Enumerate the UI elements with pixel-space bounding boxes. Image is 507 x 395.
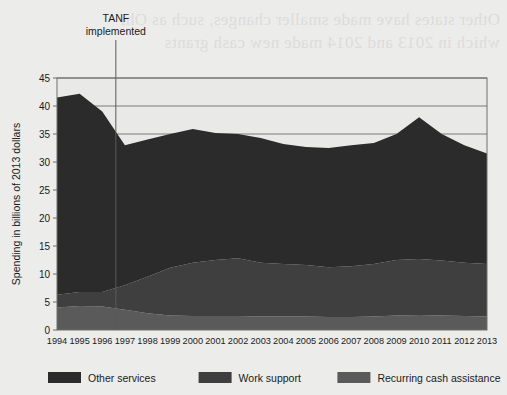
y-axis-label: Spending in billions of 2013 dollars [10,123,22,285]
tanf-annotation-line1: TANF [103,12,130,24]
y-tick-label: 45 [39,73,51,84]
legend-swatch [199,372,232,383]
y-tick-label: 5 [44,297,50,308]
stacked-area-chart: TANFimplemented051015202530354045Spendin… [0,0,507,395]
y-tick-label: 40 [39,101,51,112]
x-tick-label: 2006 [318,336,338,346]
x-tick-label: 2003 [250,336,270,346]
y-tick-label: 20 [39,213,51,224]
x-tick-label: 2001 [205,336,225,346]
tanf-annotation-line2: implemented [86,25,146,37]
x-tick-label: 2012 [454,336,474,346]
x-tick-label: 1998 [137,336,157,346]
x-tick-label: 2000 [183,336,203,346]
x-tick-label: 1994 [47,336,67,346]
x-tick-label: 1997 [115,336,135,346]
x-tick-label: 2007 [341,336,361,346]
y-tick-label: 0 [44,325,50,336]
y-tick-label: 25 [39,185,51,196]
legend-swatch [337,372,370,383]
y-tick-label: 30 [39,157,51,168]
legend-label: Other services [88,372,156,384]
x-tick-label: 1999 [160,336,180,346]
y-tick-label: 35 [39,129,51,140]
y-tick-label: 15 [39,241,51,252]
x-tick-label: 2011 [432,336,452,346]
x-tick-label: 2005 [296,336,316,346]
legend-label: Work support [239,372,301,384]
x-tick-label: 2008 [364,336,384,346]
chart-plot-area: TANFimplemented051015202530354045Spendin… [0,0,507,395]
y-tick-label: 10 [39,269,51,280]
x-tick-label: 1996 [92,336,112,346]
legend-label: Recurring cash assistance [377,372,500,384]
x-tick-label: 2002 [228,336,248,346]
legend-swatch [48,372,81,383]
chart-figure: Other states have made smaller changes, … [0,0,507,395]
x-tick-label: 2013 [477,336,497,346]
x-tick-label: 1995 [69,336,89,346]
x-tick-label: 2010 [409,336,429,346]
x-tick-label: 2004 [273,336,293,346]
x-tick-label: 2009 [386,336,406,346]
